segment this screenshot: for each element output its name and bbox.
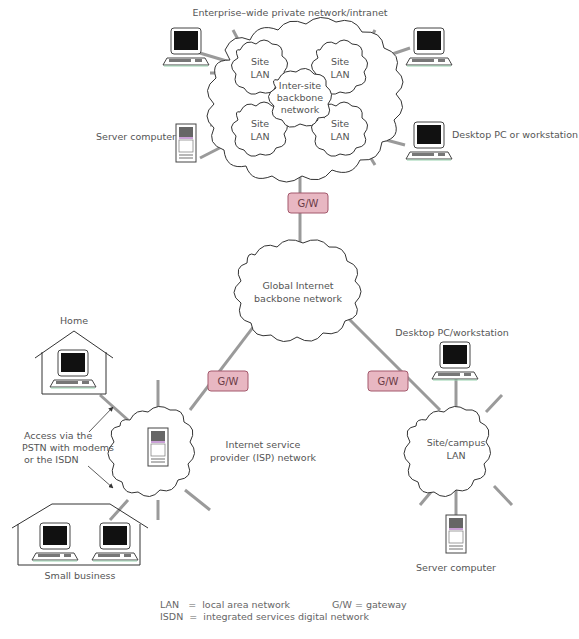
svg-text:network: network	[281, 104, 320, 115]
isp-label-line1: Internet service	[226, 439, 301, 450]
svg-text:LAN: LAN	[330, 131, 349, 142]
pc-icon-business-1	[32, 523, 78, 561]
svg-text:Inter-site: Inter-site	[279, 80, 321, 91]
svg-text:Site: Site	[331, 56, 349, 67]
legend-lan: LAN = local area network	[160, 599, 291, 610]
svg-text:Site: Site	[331, 118, 349, 129]
access-label-line1: Access via the	[24, 430, 92, 441]
svg-text:Site: Site	[251, 118, 269, 129]
access-label-line3: or the ISDN	[24, 454, 79, 465]
svg-text:G/W: G/W	[297, 198, 318, 209]
enterprise-title: Enterprise–wide private network/intranet	[192, 7, 387, 18]
gateway-campus: G/W	[368, 371, 408, 391]
legend-gw: G/W = gateway	[332, 599, 407, 610]
campus-desktop-label: Desktop PC/workstation	[395, 327, 508, 338]
server-icon-enterprise	[176, 124, 196, 162]
svg-text:LAN: LAN	[330, 69, 349, 80]
campus-server-label: Server computer	[416, 562, 496, 573]
isp-label-line2: provider (ISP) network	[210, 452, 317, 463]
svg-text:G/W: G/W	[377, 376, 398, 387]
server-icon-campus	[446, 515, 466, 553]
pc-icon-enterprise-top-left	[163, 28, 209, 66]
arrow-icon-up	[89, 407, 113, 432]
desktop-pc-label: Desktop PC or workstation	[452, 129, 578, 140]
svg-text:G/W: G/W	[217, 376, 238, 387]
pc-icon-enterprise-top-right	[406, 28, 452, 66]
pc-icon-campus	[432, 342, 478, 380]
svg-text:LAN: LAN	[446, 450, 465, 461]
global-internet-cloud: Global Internet backbone network	[234, 240, 361, 342]
server-computer-label: Server computer	[96, 131, 176, 142]
svg-text:LAN: LAN	[250, 69, 269, 80]
svg-text:backbone: backbone	[277, 92, 323, 103]
access-label-line2: PSTN with modems	[22, 442, 114, 453]
gateway-enterprise: G/W	[288, 193, 328, 213]
campus-cloud: Site/campus LAN	[404, 406, 491, 496]
pc-icon-home	[50, 350, 96, 388]
svg-text:Global Internet: Global Internet	[262, 280, 333, 291]
svg-text:Site: Site	[251, 56, 269, 67]
gateway-isp: G/W	[208, 371, 248, 391]
pc-icon-business-2	[92, 523, 138, 561]
arrow-icon-down	[88, 466, 113, 488]
svg-text:LAN: LAN	[250, 131, 269, 142]
svg-text:Site/campus: Site/campus	[427, 437, 486, 448]
small-business-label: Small business	[45, 570, 116, 581]
pc-icon-enterprise-desktop	[406, 122, 452, 160]
server-icon-isp	[148, 428, 168, 466]
home-label: Home	[60, 315, 88, 326]
svg-text:backbone network: backbone network	[254, 293, 342, 304]
legend-isdn: ISDN = integrated services digital netwo…	[160, 611, 370, 622]
